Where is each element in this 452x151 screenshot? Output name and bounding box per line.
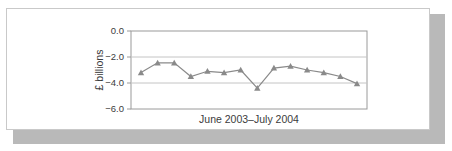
x-axis-label: June 2003–July 2004 — [199, 113, 299, 125]
figure-card: 0.0−2.0−4.0−6.0 £ billions June 2003–Jul… — [6, 8, 430, 130]
plot-frame — [131, 31, 367, 109]
line-chart: 0.0−2.0−4.0−6.0 £ billions June 2003–Jul… — [7, 9, 431, 131]
screenshot-root: 0.0−2.0−4.0−6.0 £ billions June 2003–Jul… — [0, 0, 452, 151]
chart-svg: 0.0−2.0−4.0−6.0 £ billions June 2003–Jul… — [7, 9, 431, 131]
y-axis-ticks — [127, 31, 131, 109]
y-axis-tick-label: 0.0 — [111, 25, 124, 36]
y-axis-tick-label: −2.0 — [105, 51, 124, 62]
y-axis-tick-label: −6.0 — [105, 103, 124, 114]
y-axis-tick-labels: 0.0−2.0−4.0−6.0 — [105, 25, 124, 114]
y-axis-title: £ billions — [93, 50, 105, 91]
y-axis-tick-label: −4.0 — [105, 77, 124, 88]
